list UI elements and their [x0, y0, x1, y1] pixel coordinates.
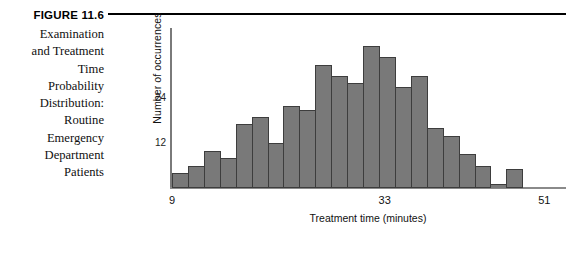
- caption-line: Distribution:: [0, 95, 104, 112]
- histogram-bar: [379, 57, 396, 188]
- caption-line: Probability: [0, 78, 104, 95]
- caption-line: Time: [0, 61, 104, 78]
- histogram-bar: [395, 87, 412, 188]
- histogram-bar: [443, 136, 460, 188]
- histogram-bar: [268, 143, 285, 188]
- y-tick-label: 12: [155, 136, 166, 147]
- histogram-bar: [172, 173, 189, 188]
- histogram-bar: [411, 76, 428, 188]
- histogram-bar: [331, 76, 348, 188]
- histogram-chart: Number of occurrences 1224 93351 Treatme…: [118, 26, 570, 226]
- histogram-bar: [283, 106, 300, 188]
- caption-line: Department: [0, 147, 104, 164]
- histogram-bar: [475, 166, 492, 188]
- histogram-bar: [427, 128, 444, 188]
- figure-number: FIGURE 11.6: [0, 8, 104, 23]
- caption-line: Examination: [0, 26, 104, 43]
- figure-caption-block: FIGURE 11.6 Examinationand TreatmentTime…: [0, 8, 108, 182]
- histogram-bars: [172, 31, 544, 188]
- histogram-bar: [347, 83, 364, 188]
- x-axis-label: Treatment time (minutes): [170, 212, 566, 224]
- caption-line: Emergency: [0, 130, 104, 147]
- x-tick-label: 33: [379, 194, 391, 206]
- y-tick-label: 24: [155, 91, 166, 102]
- histogram-bar: [506, 169, 523, 188]
- caption-line: Routine: [0, 112, 104, 129]
- x-tick-label: 51: [538, 194, 550, 206]
- header-rule: [108, 13, 566, 15]
- histogram-bar: [363, 46, 380, 188]
- histogram-bar: [252, 117, 269, 188]
- caption-line: Patients: [0, 164, 104, 181]
- caption-line: and Treatment: [0, 43, 104, 60]
- histogram-bar: [220, 158, 237, 188]
- plot-area: 1224 93351 Treatment time (minutes): [148, 28, 568, 190]
- histogram-bar: [315, 65, 332, 188]
- x-tick-label: 9: [169, 194, 175, 206]
- histogram-bar: [236, 124, 253, 188]
- histogram-bar: [299, 110, 316, 189]
- histogram-bar: [204, 151, 221, 188]
- histogram-bar: [459, 154, 476, 188]
- histogram-bar: [188, 166, 205, 188]
- figure-caption-text: Examinationand TreatmentTimeProbabilityD…: [0, 26, 104, 182]
- histogram-bar: [490, 184, 507, 188]
